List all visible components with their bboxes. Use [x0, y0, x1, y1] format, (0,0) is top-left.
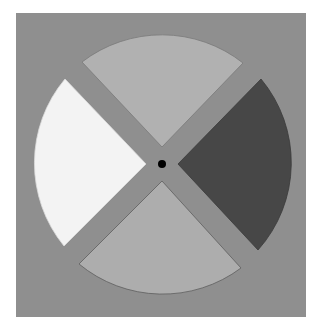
stimulus-figure	[0, 0, 318, 329]
fixation-dot	[158, 160, 166, 168]
